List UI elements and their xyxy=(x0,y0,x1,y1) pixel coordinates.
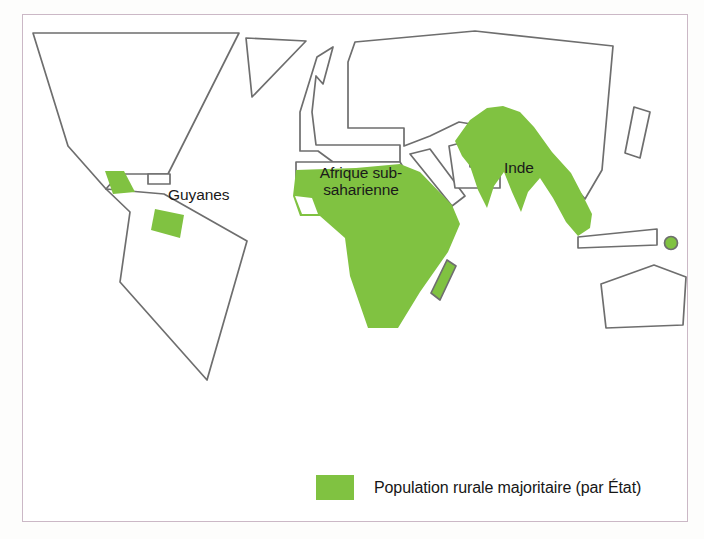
region-north-america xyxy=(33,33,239,189)
legend: Population rurale majoritaire (par État) xyxy=(316,475,641,500)
map-label-inde: Inde xyxy=(504,159,534,176)
legend-label-rural-population: Population rurale majoritaire (par État) xyxy=(374,479,641,497)
highlight-sri-lanka xyxy=(665,237,678,250)
region-indonesia xyxy=(578,229,657,248)
map-label-afrique-sub-saharienne: Afrique sub-saharienne xyxy=(286,164,436,198)
region-caribbean-island xyxy=(148,174,170,184)
region-greenland xyxy=(246,38,306,97)
map-label-guyanes: Guyanes xyxy=(168,186,229,203)
legend-swatch-rural-population xyxy=(316,475,354,500)
region-australia xyxy=(601,265,686,328)
region-japan xyxy=(625,107,650,158)
map-figure: .land { fill: #ffffff; stroke: #6e6e6e; … xyxy=(0,0,704,539)
world-map: .land { fill: #ffffff; stroke: #6e6e6e; … xyxy=(0,0,704,539)
